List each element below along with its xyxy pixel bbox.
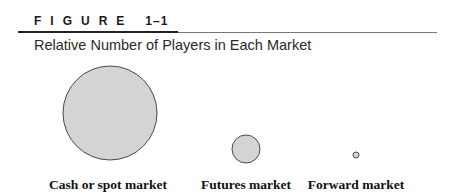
market-circles [0, 0, 458, 196]
forward-market-label: Forward market [308, 177, 404, 193]
cash-market-circle [63, 66, 157, 160]
forward-market-circle [353, 152, 359, 158]
cash-market-label: Cash or spot market [49, 177, 167, 193]
futures-market-label: Futures market [201, 177, 291, 193]
futures-market-circle [232, 135, 260, 163]
